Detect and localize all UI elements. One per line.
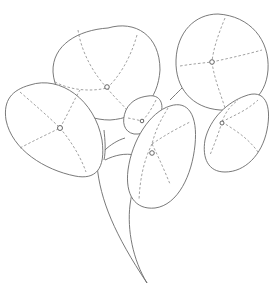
plant-sketch: [0, 0, 280, 297]
stem-top-left: [104, 130, 105, 160]
sketch-canvas: [0, 0, 280, 297]
stem-branch-a: [105, 138, 125, 150]
